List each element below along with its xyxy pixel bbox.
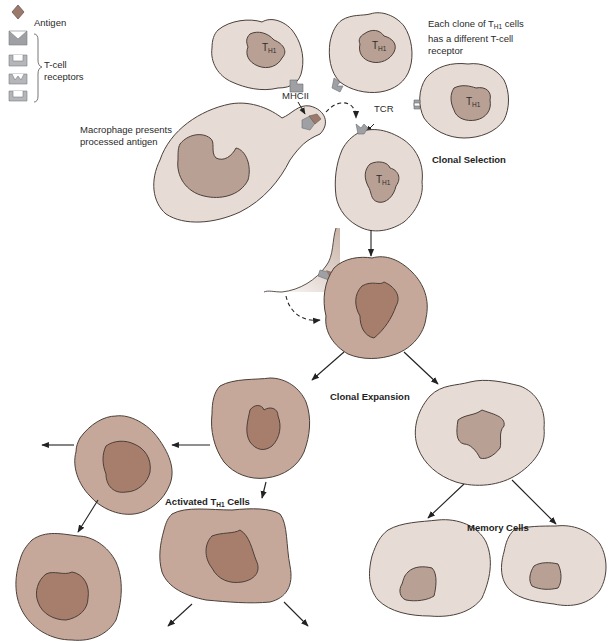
activated-arrow-down — [262, 482, 266, 498]
tcr-icon — [414, 100, 420, 109]
activation-dashed-arrow — [286, 296, 320, 320]
legend-tcr-label-line2: receptors — [44, 71, 84, 83]
memory-cell-2 — [502, 526, 606, 606]
tcr-type1-icon — [9, 31, 27, 45]
activated-cell-a — [212, 378, 310, 478]
antigen-icon — [12, 5, 24, 19]
activated-cell-c — [16, 534, 121, 641]
tcr-label: TCR — [374, 103, 394, 115]
activated-d-arrow-down-left — [168, 604, 192, 626]
brace-icon — [34, 34, 42, 102]
memory-arrow-right — [512, 480, 556, 524]
legend-antigen-label: Antigen — [34, 17, 66, 29]
activated-cell-b — [75, 416, 172, 515]
th1-label-clone-3: TH1 — [466, 96, 480, 108]
th1-label-clone-1: TH1 — [262, 42, 276, 54]
expansion-left-arrow — [312, 352, 344, 380]
activated-th1-label: Activated TH1 Cells — [165, 496, 250, 511]
mhcii-label: MHCII — [282, 90, 309, 102]
clonal-expansion-label: Clonal Expansion — [330, 391, 410, 403]
expansion-right-arrow — [404, 352, 438, 384]
th1-label-clone-2: TH1 — [372, 40, 386, 52]
clonal-selection-label: Clonal Selection — [432, 154, 506, 166]
activated-central-cell — [324, 257, 427, 359]
macrophage — [154, 103, 326, 222]
activated-b-arrow-down — [78, 500, 98, 532]
selection-dashed-arrow — [326, 103, 356, 118]
clone-note: Each clone of TH1 cells has a different … — [428, 18, 524, 57]
macrophage-label: Macrophage presents processed antigen — [80, 124, 172, 148]
th1-label-selected: TH1 — [376, 174, 390, 186]
memory-cells-label: Memory Cells — [467, 522, 529, 534]
legend-tcr-label-line1: T-cell — [44, 59, 67, 71]
th1-clone-1 — [212, 20, 303, 92]
th1-clone-2 — [329, 13, 412, 93]
th1-clone-3 — [414, 64, 509, 138]
memory-arrow-left — [428, 484, 464, 518]
memory-cell-1 — [370, 520, 491, 617]
activated-cell-d — [160, 509, 291, 603]
memory-parent-cell — [415, 380, 544, 485]
activated-d-arrow-down-right — [284, 602, 308, 626]
